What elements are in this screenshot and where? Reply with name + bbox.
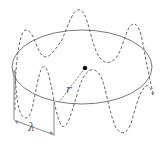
wavelength-arrowhead-left xyxy=(14,120,19,124)
orbit-ellipse xyxy=(12,30,152,104)
radius-label: r xyxy=(66,84,71,95)
wavelength-arrowhead-right xyxy=(49,131,54,135)
nucleus-dot xyxy=(83,66,88,71)
wave-front xyxy=(15,67,153,133)
wavelength-label: λ xyxy=(28,122,35,133)
orbit-diagram xyxy=(0,0,164,144)
radius-line xyxy=(59,68,85,102)
